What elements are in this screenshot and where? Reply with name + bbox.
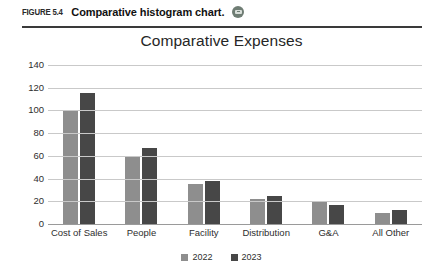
bar[interactable]	[267, 196, 282, 224]
bar[interactable]	[125, 156, 140, 224]
y-axis-tick-label: 80	[14, 128, 44, 138]
legend-item[interactable]: 2022	[181, 252, 212, 262]
y-axis-tick-label: 100	[14, 106, 44, 116]
gridline	[48, 179, 422, 180]
chart-canvas: 020406080100120140 20222023 Cost of Sale…	[0, 0, 443, 278]
chart-legend: 20222023	[0, 252, 443, 262]
bar[interactable]	[392, 210, 407, 224]
bar[interactable]	[142, 148, 157, 224]
y-axis: 020406080100120140	[10, 65, 44, 224]
gridline	[48, 110, 422, 111]
y-axis-tick-label: 120	[14, 83, 44, 93]
gridline	[48, 88, 422, 89]
bar-group	[297, 65, 359, 224]
gridline	[48, 201, 422, 202]
legend-item[interactable]: 2023	[231, 252, 262, 262]
legend-label: 2022	[192, 252, 212, 262]
bar[interactable]	[80, 93, 95, 224]
bar[interactable]	[329, 205, 344, 224]
plot-area	[48, 65, 422, 224]
legend-swatch	[231, 254, 238, 261]
y-axis-tick-label: 140	[14, 60, 44, 70]
bar[interactable]	[188, 184, 203, 224]
bar[interactable]	[63, 110, 78, 224]
gridline	[48, 224, 422, 225]
x-axis-tick-label: Cost of Sales	[48, 228, 110, 238]
gridline	[48, 65, 422, 66]
y-axis-tick-label: 0	[14, 219, 44, 229]
x-axis-tick-label: People	[110, 228, 172, 238]
bars-layer	[48, 65, 422, 224]
bar-group	[48, 65, 110, 224]
y-axis-tick-label: 60	[14, 151, 44, 161]
bar[interactable]	[375, 213, 390, 224]
gridline	[48, 133, 422, 134]
legend-label: 2023	[242, 252, 262, 262]
bar[interactable]	[250, 199, 265, 224]
x-axis-tick-label: Distribution	[235, 228, 297, 238]
bar-group	[173, 65, 235, 224]
bar-group	[235, 65, 297, 224]
y-axis-tick-label: 20	[14, 197, 44, 207]
x-axis-tick-label: All Other	[360, 228, 422, 238]
bar[interactable]	[312, 201, 327, 224]
y-axis-tick-label: 40	[14, 174, 44, 184]
bar[interactable]	[205, 181, 220, 224]
bar-group	[360, 65, 422, 224]
figure-page: FIGURE 5.4 Comparative histogram chart. …	[0, 0, 443, 278]
bar-group	[110, 65, 172, 224]
legend-swatch	[181, 254, 188, 261]
x-axis-tick-label: G&A	[297, 228, 359, 238]
gridline	[48, 156, 422, 157]
x-axis-tick-label: Facility	[173, 228, 235, 238]
